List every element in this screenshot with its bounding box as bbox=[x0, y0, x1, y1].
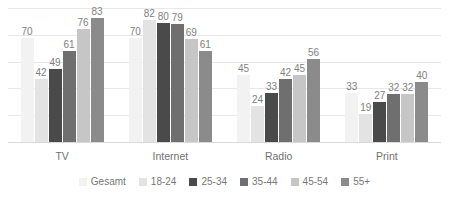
bar-value-label: 56 bbox=[301, 47, 327, 58]
bar-group: 704249617683 bbox=[8, 8, 116, 142]
bar[interactable] bbox=[373, 102, 386, 142]
bar-wrapper: 33 bbox=[345, 8, 358, 142]
legend-label: 45-54 bbox=[303, 176, 329, 188]
legend-item[interactable]: 25-34 bbox=[189, 176, 227, 188]
bar-wrapper: 27 bbox=[373, 8, 386, 142]
bar-chart: 7042496176837082807969614524334245563319… bbox=[0, 0, 449, 201]
bar[interactable] bbox=[21, 38, 34, 142]
bar[interactable] bbox=[185, 39, 198, 142]
legend-item[interactable]: 35-44 bbox=[240, 176, 278, 188]
bar-wrapper: 40 bbox=[415, 8, 428, 142]
bar[interactable] bbox=[171, 24, 184, 142]
bar[interactable] bbox=[91, 18, 104, 142]
category-label: TV bbox=[8, 146, 116, 166]
bar-wrapper: 45 bbox=[293, 8, 306, 142]
bar[interactable] bbox=[199, 51, 212, 142]
bar[interactable] bbox=[157, 23, 170, 142]
bar-wrapper: 61 bbox=[63, 8, 76, 142]
bar-group: 708280796961 bbox=[116, 8, 224, 142]
bar-wrapper: 56 bbox=[307, 8, 320, 142]
bar-group: 452433424556 bbox=[225, 8, 333, 142]
bar-wrapper: 45 bbox=[237, 8, 250, 142]
bar[interactable] bbox=[77, 29, 90, 142]
bar[interactable] bbox=[279, 79, 292, 142]
bar[interactable] bbox=[415, 82, 428, 142]
bar[interactable] bbox=[293, 75, 306, 142]
legend-label: 35-44 bbox=[252, 176, 278, 188]
legend-item[interactable]: 18-24 bbox=[139, 176, 177, 188]
legend-item[interactable]: 55+ bbox=[341, 176, 370, 188]
category-axis-labels: TVInternetRadioPrint bbox=[8, 146, 441, 166]
bar[interactable] bbox=[49, 69, 62, 142]
bar-value-label: 61 bbox=[192, 39, 218, 50]
bar[interactable] bbox=[143, 20, 156, 142]
legend-label: Gesamt bbox=[91, 176, 126, 188]
plot-area: 7042496176837082807969614524334245563319… bbox=[8, 8, 441, 142]
category-label: Print bbox=[333, 146, 441, 166]
bar[interactable] bbox=[359, 114, 372, 142]
bar-value-label: 40 bbox=[409, 70, 435, 81]
legend-label: 25-34 bbox=[201, 176, 227, 188]
bar[interactable] bbox=[129, 38, 142, 142]
bar[interactable] bbox=[265, 93, 278, 142]
bar[interactable] bbox=[307, 59, 320, 142]
category-label: Internet bbox=[116, 146, 224, 166]
bar-wrapper: 42 bbox=[279, 8, 292, 142]
legend-swatch-icon bbox=[189, 178, 197, 186]
category-label: Radio bbox=[225, 146, 333, 166]
bar-wrapper: 19 bbox=[359, 8, 372, 142]
bar-group: 331927323240 bbox=[333, 8, 441, 142]
bar-value-label: 83 bbox=[84, 6, 110, 17]
legend-label: 18-24 bbox=[151, 176, 177, 188]
bar-wrapper: 70 bbox=[129, 8, 142, 142]
bar[interactable] bbox=[345, 93, 358, 142]
bar-wrapper: 61 bbox=[199, 8, 212, 142]
legend-swatch-icon bbox=[291, 178, 299, 186]
bar-wrapper: 24 bbox=[251, 8, 264, 142]
bar-groups: 7042496176837082807969614524334245563319… bbox=[8, 8, 441, 142]
bar-wrapper: 42 bbox=[35, 8, 48, 142]
chart-legend: Gesamt18-2425-3435-4445-5455+ bbox=[0, 172, 449, 192]
bar[interactable] bbox=[387, 94, 400, 142]
bar-wrapper: 32 bbox=[387, 8, 400, 142]
legend-swatch-icon bbox=[341, 178, 349, 186]
bar-wrapper: 83 bbox=[91, 8, 104, 142]
bar[interactable] bbox=[237, 75, 250, 142]
bar[interactable] bbox=[251, 106, 264, 142]
legend-swatch-icon bbox=[79, 178, 87, 186]
bar-wrapper: 82 bbox=[143, 8, 156, 142]
bar-wrapper: 76 bbox=[77, 8, 90, 142]
bar[interactable] bbox=[401, 94, 414, 142]
legend-item[interactable]: 45-54 bbox=[291, 176, 329, 188]
bar-wrapper: 80 bbox=[157, 8, 170, 142]
x-axis-line bbox=[8, 142, 441, 143]
legend-label: 55+ bbox=[353, 176, 370, 188]
legend-item[interactable]: Gesamt bbox=[79, 176, 126, 188]
legend-swatch-icon bbox=[139, 178, 147, 186]
bar[interactable] bbox=[63, 51, 76, 142]
bar-wrapper: 69 bbox=[185, 8, 198, 142]
bar[interactable] bbox=[35, 79, 48, 142]
legend-swatch-icon bbox=[240, 178, 248, 186]
bar-wrapper: 49 bbox=[49, 8, 62, 142]
